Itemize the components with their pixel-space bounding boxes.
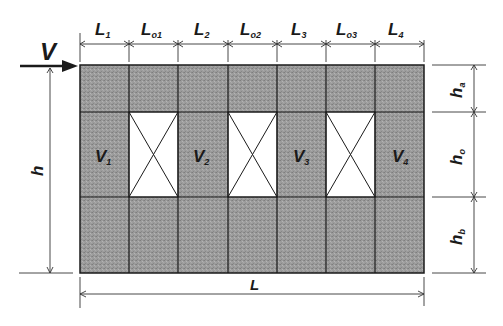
- dim-L4: L4: [388, 20, 403, 40]
- load-arrow: V: [20, 38, 78, 72]
- dim-L1: L1: [95, 20, 110, 40]
- top-dimension-labels: L1 Lo1 L2 Lo2 L3 Lo3 L4: [95, 20, 403, 40]
- dim-ha: ha: [447, 83, 467, 98]
- openings: [129, 112, 375, 197]
- dim-L3: L3: [291, 20, 306, 40]
- dim-Lo1: Lo1: [141, 20, 162, 40]
- dim-hb: hb: [447, 229, 467, 245]
- load-label: V: [40, 38, 58, 65]
- dim-Lo2: Lo2: [240, 20, 261, 40]
- dim-L2: L2: [194, 20, 209, 40]
- dim-ho: ho: [447, 149, 467, 165]
- height-label: h: [28, 166, 47, 176]
- opening-1: [129, 112, 178, 197]
- length-label: L: [250, 276, 259, 293]
- shear-wall-diagram: L1 Lo1 L2 Lo2 L3 Lo3 L4 V h ha ho hb: [0, 0, 503, 326]
- opening-2: [228, 112, 277, 197]
- opening-3: [326, 112, 375, 197]
- arrow-right-icon: [62, 60, 78, 72]
- dim-Lo3: Lo3: [336, 20, 357, 40]
